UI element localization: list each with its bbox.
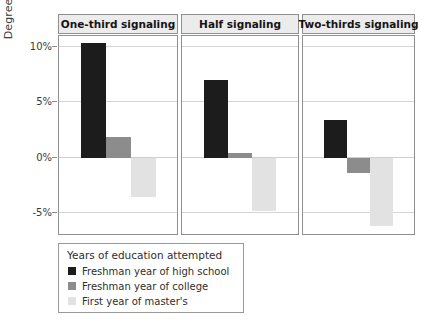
y-axis-tick-mark <box>52 157 57 158</box>
gridline <box>182 101 298 102</box>
legend-item[interactable]: Freshman year of high school <box>66 264 237 278</box>
bar <box>252 158 276 211</box>
legend-item-label: First year of master's <box>82 296 188 307</box>
bar <box>370 158 393 227</box>
legend-item[interactable]: First year of master's <box>66 294 237 308</box>
gridline <box>59 46 177 47</box>
legend-swatch-icon <box>68 267 76 275</box>
y-axis-tick-mark <box>52 101 57 102</box>
facet-panel: One-third signaling <box>58 14 178 235</box>
y-axis-tick-mark <box>52 46 57 47</box>
y-axis-tick-label: -5% <box>8 207 52 218</box>
degree-return-faceted-bar-chart: Degree return 10%5%0%-5% One-third signa… <box>0 0 430 325</box>
bar <box>324 120 347 158</box>
bar <box>347 158 370 173</box>
gridline <box>59 212 177 213</box>
bar <box>131 158 156 198</box>
y-axis-tick-label: 10% <box>8 41 52 52</box>
facet-panel-header: Two-thirds signaling <box>302 14 415 34</box>
legend-swatch-icon <box>68 297 76 305</box>
legend-item[interactable]: Freshman year of college <box>66 279 237 293</box>
legend-item-label: Freshman year of high school <box>82 266 229 277</box>
facet-plot-area <box>58 35 178 235</box>
gridline <box>182 212 298 213</box>
y-axis-tick-label: 5% <box>8 96 52 107</box>
gridline <box>59 101 177 102</box>
bar <box>81 43 106 158</box>
y-axis-tick-mark <box>52 212 57 213</box>
gridline <box>182 46 298 47</box>
facet-panel-header: One-third signaling <box>58 14 178 34</box>
bar <box>204 80 228 157</box>
bar <box>228 153 252 157</box>
facet-plot-area <box>302 35 415 235</box>
facet-panel-title: Two-thirds signaling <box>298 18 418 30</box>
facet-panel: Half signaling <box>181 14 299 235</box>
bar <box>106 137 131 158</box>
facet-panel-title: Half signaling <box>199 18 281 30</box>
y-axis-ticks: 10%5%0%-5% <box>6 0 52 325</box>
facet-plot-area <box>181 35 299 235</box>
legend-swatch-icon <box>68 282 76 290</box>
legend-item-label: Freshman year of college <box>82 281 208 292</box>
legend: Years of education attempted Freshman ye… <box>58 243 244 313</box>
legend-items: Freshman year of high schoolFreshman yea… <box>66 264 237 308</box>
legend-title: Years of education attempted <box>67 249 237 261</box>
y-axis-tick-label: 0% <box>8 151 52 162</box>
facet-panel-header: Half signaling <box>181 14 299 34</box>
gridline <box>303 101 414 102</box>
facet-panel: Two-thirds signaling <box>302 14 415 235</box>
gridline <box>303 46 414 47</box>
gridline <box>303 212 414 213</box>
facet-panel-title: One-third signaling <box>61 18 175 30</box>
